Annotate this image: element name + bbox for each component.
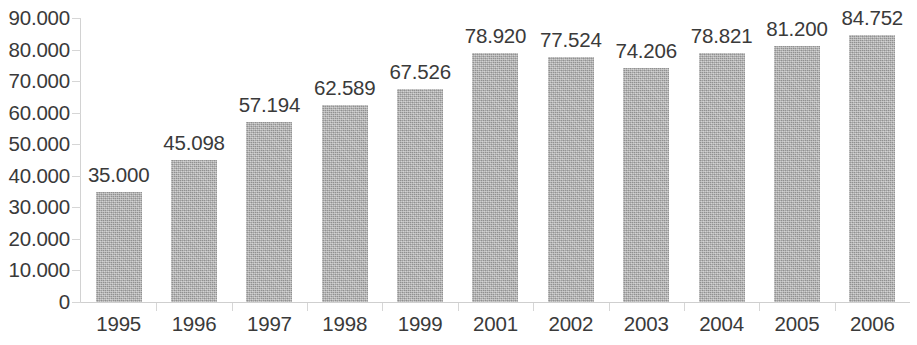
y-axis-tick-label: 60.000	[8, 101, 70, 125]
x-axis-category-label: 1999	[382, 312, 457, 336]
y-axis-tick-label: 30.000	[8, 195, 70, 219]
x-axis-tick-mark	[759, 303, 760, 311]
x-axis-category-label: 2003	[609, 312, 684, 336]
bar-value-label: 77.524	[533, 28, 608, 52]
y-axis-tick-label: 40.000	[8, 164, 70, 188]
bar-value-label: 45.098	[156, 131, 231, 155]
bar	[699, 53, 745, 302]
x-axis-tick-mark	[382, 303, 383, 311]
bar	[849, 35, 895, 302]
x-axis-tick-mark	[609, 303, 610, 311]
bar	[472, 53, 518, 302]
y-axis-tick-mark	[72, 113, 81, 114]
y-axis-tick-mark	[72, 176, 81, 177]
x-axis-tick-mark	[533, 303, 534, 311]
y-axis-tick-mark	[72, 18, 81, 19]
plot-area: 35.000199545.098199657.194199762.5891998…	[81, 0, 910, 345]
x-axis-category-label: 1998	[307, 312, 382, 336]
y-axis-tick-mark	[72, 144, 81, 145]
x-axis-category-label: 2002	[533, 312, 608, 336]
x-axis-category-label: 1995	[81, 312, 156, 336]
x-axis-tick-mark	[307, 303, 308, 311]
x-axis-category-label: 1997	[232, 312, 307, 336]
y-axis-tick-mark	[72, 270, 81, 271]
x-axis-category-label: 2001	[458, 312, 533, 336]
x-axis-category-label: 2004	[684, 312, 759, 336]
bar	[322, 105, 368, 303]
bar	[96, 192, 142, 302]
y-axis-tick-mark	[72, 302, 81, 303]
y-axis-tick-label: 50.000	[8, 132, 70, 156]
y-axis-tick-label: 0	[59, 290, 70, 314]
x-axis-category-label: 2006	[835, 312, 910, 336]
y-axis-tick-label: 20.000	[8, 227, 70, 251]
bar-value-label: 57.194	[232, 93, 307, 117]
y-axis: 90.00080.00070.00060.00050.00040.00030.0…	[0, 0, 78, 345]
bar-value-label: 81.200	[759, 17, 834, 41]
x-axis-tick-mark	[684, 303, 685, 311]
x-axis-category-label: 2005	[759, 312, 834, 336]
bar	[548, 57, 594, 302]
y-axis-tick-mark	[72, 207, 81, 208]
bar-value-label: 35.000	[81, 163, 156, 187]
bar-value-label: 78.920	[458, 24, 533, 48]
x-axis-tick-mark	[232, 303, 233, 311]
bar-chart: 90.00080.00070.00060.00050.00040.00030.0…	[0, 0, 917, 345]
bar	[246, 122, 292, 302]
x-axis-category-label: 1996	[156, 312, 231, 336]
bar-value-label: 62.589	[307, 76, 382, 100]
y-axis-tick-mark	[72, 81, 81, 82]
bar-value-label: 74.206	[609, 39, 684, 63]
bar-value-label: 67.526	[382, 60, 457, 84]
y-axis-tick-label: 70.000	[8, 69, 70, 93]
y-axis-tick-mark	[72, 239, 81, 240]
y-axis-tick-label: 90.000	[8, 6, 70, 30]
bar	[774, 46, 820, 302]
x-axis-tick-mark	[458, 303, 459, 311]
bar	[397, 89, 443, 302]
y-axis-tick-label: 80.000	[8, 38, 70, 62]
bar	[171, 160, 217, 302]
x-axis-tick-mark	[156, 303, 157, 311]
y-axis-tick-label: 10.000	[8, 258, 70, 282]
y-axis-tick-mark	[72, 50, 81, 51]
bar-value-label: 84.752	[835, 6, 910, 30]
bar-value-label: 78.821	[684, 24, 759, 48]
x-axis-tick-mark	[835, 303, 836, 311]
bar	[623, 68, 669, 302]
